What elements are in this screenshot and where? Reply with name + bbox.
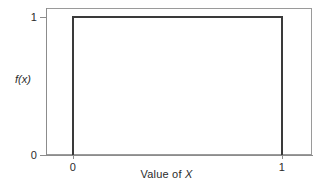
uniform-distribution-figure: 1 0 0 1 f(x) Value of X bbox=[0, 0, 333, 191]
density-polyline bbox=[73, 17, 282, 155]
density-curve bbox=[0, 0, 333, 191]
